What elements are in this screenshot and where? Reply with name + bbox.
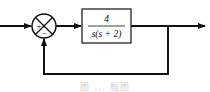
summing-junction: + −	[32, 14, 56, 38]
figure-caption: 图 ... 框图	[0, 80, 210, 92]
minus-sign: −	[41, 28, 46, 38]
transfer-function-block: 4 s(s + 2)	[82, 9, 131, 43]
block-denominator: s(s + 2)	[92, 29, 122, 40]
block-numerator: 4	[104, 13, 109, 24]
block-diagram: + − 4 s(s + 2)	[0, 0, 210, 92]
